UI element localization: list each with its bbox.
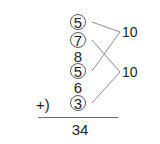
sum-total: 34 (58, 121, 102, 139)
group-total-top: 10 (122, 24, 150, 40)
addend-1-value: 5 (74, 15, 82, 30)
addend-1: 5 (66, 13, 90, 31)
addend-6-value: 3 (74, 96, 82, 111)
connector-seven-to-ten-bottom (92, 40, 120, 72)
addend-6: 3 (66, 94, 90, 112)
addend-2-value: 7 (74, 33, 82, 48)
connector-five-fourth-to-ten-top (92, 32, 120, 71)
plus-operator: +) (36, 96, 62, 114)
addition-worksheet: 5 7 8 5 6 3 +) 34 10 10 (0, 0, 160, 144)
sum-horizontal-rule (38, 117, 118, 118)
group-total-bottom: 10 (122, 64, 150, 80)
connector-three-to-ten-bottom (92, 72, 120, 103)
addend-5-value: 6 (74, 80, 82, 95)
addend-3-value: 8 (74, 49, 82, 64)
addend-4-value: 5 (74, 64, 82, 79)
connector-five-top-to-ten-top (92, 22, 120, 32)
